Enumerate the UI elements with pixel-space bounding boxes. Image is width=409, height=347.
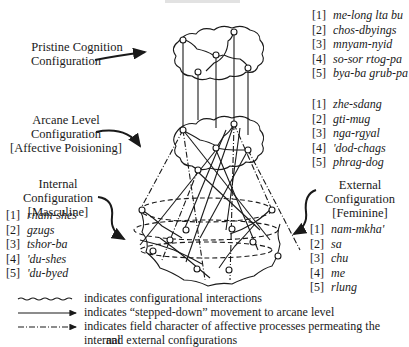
item-number: [2] (312, 112, 333, 127)
item-number: [5] (6, 266, 27, 281)
list-item: [4]'dod-chags (312, 141, 386, 156)
item-term: gzugs (27, 223, 54, 237)
legend: indicates configurational interactions i… (0, 291, 409, 345)
item-term: tshor-ba (27, 237, 67, 251)
item-term: nam-mkha' (331, 222, 384, 236)
item-term: 'du-byed (27, 266, 68, 280)
item-number: [5] (312, 155, 333, 170)
list-item: [1]me-long lta bu (312, 8, 408, 23)
item-number: [1] (310, 222, 331, 237)
item-number: [2] (6, 223, 27, 238)
arcane-label-line1: Arcane Level (10, 113, 122, 127)
item-term: rnam-shes (27, 208, 77, 222)
item-number: [3] (312, 37, 333, 52)
pristine-label-line1: Pristine Cognition (22, 40, 132, 54)
list-item: [2]chos-dbyings (312, 23, 408, 38)
item-number: [2] (310, 237, 331, 252)
list-item: [2]gti-mug (312, 112, 386, 127)
item-number: [1] (312, 8, 333, 23)
list-item: [3]nga-rgyal (312, 126, 386, 141)
internal-list: [1]rnam-shes [2]gzugs [3]tshor-ba [4]'du… (6, 208, 77, 281)
item-number: [2] (312, 23, 333, 38)
list-item: [5]'du-byed (6, 266, 77, 281)
arcane-label: Arcane Level Configuration [Affective Po… (10, 113, 122, 155)
list-item: [3]mnyam-nyid (312, 37, 408, 52)
item-term: gti-mug (333, 112, 370, 126)
list-item: [2]sa (310, 237, 384, 252)
item-number: [3] (312, 126, 333, 141)
item-number: [4] (310, 266, 331, 281)
list-item: [2]gzugs (6, 223, 77, 238)
item-term: chos-dbyings (333, 23, 396, 37)
item-term: me-long lta bu (333, 8, 403, 22)
item-term: bya-ba grub-pa (333, 66, 408, 80)
item-term: zhe-sdang (333, 97, 382, 111)
external-label-line3: [Feminine] (310, 206, 409, 220)
list-item: [4]'du-shes (6, 252, 77, 267)
item-number: [3] (6, 237, 27, 252)
item-term: so-sor rtog-pa (333, 52, 402, 66)
legend-item-continuation: and external configurations (106, 333, 237, 347)
list-item: [5]bya-ba grub-pa (312, 66, 408, 81)
list-item: [3]tshor-ba (6, 237, 77, 252)
stepped-down-lines (183, 33, 248, 135)
item-number: [4] (312, 141, 333, 156)
item-number: [3] (310, 251, 331, 266)
arcane-label-line2: Configuration (10, 127, 122, 141)
item-number: [1] (312, 97, 333, 112)
external-list: [1]nam-mkha' [2]sa [3]chu [4]me [5]rlung (310, 222, 384, 295)
list-item: [1]zhe-sdang (312, 97, 386, 112)
item-term: phrag-dog (333, 155, 384, 169)
item-number: [5] (312, 66, 333, 81)
list-item: [3]chu (310, 251, 384, 266)
external-label: External Configuration [Feminine] (310, 178, 409, 220)
arcane-cloud (174, 116, 264, 169)
internal-label-line1: Internal (8, 177, 108, 191)
item-number: [1] (6, 208, 27, 223)
pristine-list: [1]me-long lta bu [2]chos-dbyings [3]mny… (312, 8, 408, 81)
list-item: [1]nam-mkha' (310, 222, 384, 237)
list-item: [4]me (310, 266, 384, 281)
list-item: [4]so-sor rtog-pa (312, 52, 408, 67)
legend-item-solid: indicates “stepped-down” movement to arc… (84, 305, 334, 319)
arcane-list: [1]zhe-sdang [2]gti-mug [3]nga-rgyal [4]… (312, 97, 386, 170)
pristine-label: Pristine Cognition Configuration (22, 40, 132, 68)
item-term: nga-rgyal (333, 126, 380, 140)
item-term: me (331, 266, 345, 280)
list-item: [1]rnam-shes (6, 208, 77, 223)
item-term: 'dod-chags (333, 141, 386, 155)
internal-label-line2: Configuration (8, 191, 108, 205)
item-term: 'du-shes (27, 252, 66, 266)
item-term: chu (331, 251, 348, 265)
item-number: [4] (312, 52, 333, 67)
external-label-line1: External (310, 178, 409, 192)
item-term: mnyam-nyid (333, 37, 392, 51)
item-term: sa (331, 237, 342, 251)
legend-item-wavy: indicates configurational interactions (84, 291, 262, 305)
item-number: [4] (6, 252, 27, 267)
external-label-line2: Configuration (310, 192, 409, 206)
list-item: [5]phrag-dog (312, 155, 386, 170)
arcane-label-line3: [Affective Poisioning] (10, 141, 122, 155)
pristine-label-line2: Configuration (0, 54, 132, 68)
